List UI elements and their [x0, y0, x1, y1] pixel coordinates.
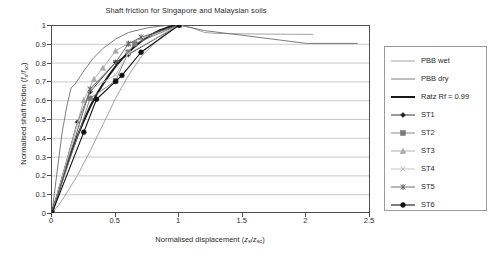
x-axis-title: Normalised displacement (zs/zsc)	[51, 235, 369, 244]
legend-item-ratz-rf-0-99[interactable]: Ratz Rf = 0.99	[390, 87, 485, 107]
x-axis-tick-mark	[369, 213, 370, 217]
legend-label: ST6	[421, 201, 435, 209]
x-axis-tick-mark	[178, 213, 179, 217]
y-axis-tick-mark	[47, 25, 51, 26]
legend-item-pbb-dry[interactable]: PBB dry	[390, 69, 485, 89]
legend-label: PBB dry	[421, 75, 449, 83]
x-axis-tick-label: 1	[163, 216, 193, 225]
data-point-marker	[139, 34, 144, 40]
x-axis-tick-label: 0.5	[100, 216, 130, 225]
y-axis-tick-mark	[47, 63, 51, 64]
x-axis-tick-mark	[51, 213, 52, 217]
x-axis-tick-label: 1.5	[227, 216, 257, 225]
x-axis-tick-mark	[242, 213, 243, 217]
legend-swatch	[390, 109, 416, 121]
series-pbb-dry	[52, 25, 357, 213]
legend-swatch	[390, 73, 416, 85]
y-axis-title: Normalised shaft friction (fs/fsc)	[19, 14, 28, 214]
legend-item-st2[interactable]: ST2	[390, 123, 485, 143]
legend-swatch	[390, 55, 416, 67]
x-axis-tick-label: 2.5	[354, 216, 384, 225]
legend-item-st4[interactable]: ST4	[390, 159, 485, 179]
legend-label: ST1	[421, 111, 435, 119]
plot-canvas	[52, 25, 370, 213]
x-axis-tick-label: 2	[290, 216, 320, 225]
x-axis-tick-mark	[305, 213, 306, 217]
y-axis-tick-mark	[47, 175, 51, 176]
legend-label: PBB wet	[421, 57, 450, 65]
data-point-marker	[139, 50, 144, 55]
legend-item-st5[interactable]: ST5	[390, 177, 485, 197]
series-line	[52, 25, 313, 213]
data-point-marker	[120, 73, 125, 78]
chart-legend: PBB wetPBB dryRatz Rf = 0.99ST1ST2ST3ST4…	[384, 46, 487, 211]
legend-marker	[401, 131, 406, 136]
series-pbb-wet	[52, 25, 313, 213]
y-axis-tick-mark	[47, 138, 51, 139]
y-axis-tick-mark	[47, 157, 51, 158]
data-point-marker	[177, 25, 182, 27]
x-axis-tick-mark	[115, 213, 116, 217]
legend-item-pbb-wet[interactable]: PBB wet	[390, 51, 485, 71]
chart-title: Shaft friction for Singapore and Malaysi…	[0, 6, 372, 15]
legend-item-st1[interactable]: ST1	[390, 105, 485, 125]
legend-swatch	[390, 163, 416, 175]
data-point-marker	[113, 48, 118, 53]
data-point-marker	[88, 96, 93, 101]
data-point-marker	[113, 79, 118, 84]
legend-swatch	[390, 91, 416, 103]
y-axis-tick-mark	[47, 44, 51, 45]
legend-swatch	[390, 181, 416, 193]
legend-label: ST2	[421, 129, 435, 137]
plot-area	[51, 25, 369, 213]
legend-marker	[401, 203, 406, 208]
legend-label: ST5	[421, 183, 435, 191]
legend-label: Ratz Rf = 0.99	[421, 93, 469, 101]
y-axis-tick-mark	[47, 100, 51, 101]
data-point-marker	[113, 72, 118, 77]
data-point-marker	[81, 130, 86, 135]
legend-swatch	[390, 199, 416, 211]
chart-figure: Shaft friction for Singapore and Malaysi…	[0, 0, 495, 268]
y-axis-tick-mark	[47, 119, 51, 120]
legend-swatch	[390, 145, 416, 157]
legend-swatch	[390, 127, 416, 139]
x-axis-tick-label: 0	[36, 216, 66, 225]
legend-label: ST4	[421, 165, 435, 173]
legend-item-st6[interactable]: ST6	[390, 195, 485, 215]
data-point-marker	[94, 97, 99, 102]
legend-label: ST3	[421, 147, 435, 155]
legend-item-st3[interactable]: ST3	[390, 141, 485, 161]
y-axis-tick-mark	[47, 194, 51, 195]
series-line	[52, 25, 357, 213]
legend-marker	[401, 113, 406, 118]
y-axis-tick-mark	[47, 81, 51, 82]
